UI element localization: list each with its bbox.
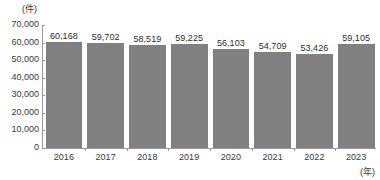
x-axis-tick-mark <box>335 148 336 151</box>
x-axis-unit-label: (年) <box>360 165 375 178</box>
x-axis-tick-mark <box>168 148 169 151</box>
x-axis-tick-mark <box>294 148 295 151</box>
bar <box>213 49 250 148</box>
bar <box>254 52 291 148</box>
bar <box>129 45 166 148</box>
x-axis-tick-mark <box>252 148 253 151</box>
bar <box>296 54 333 148</box>
bar-value-label: 59,105 <box>332 33 380 43</box>
x-axis-tick-label: 2023 <box>332 152 380 163</box>
bar <box>87 43 124 148</box>
bar-value-label: 53,426 <box>290 43 339 53</box>
bar <box>171 44 208 148</box>
bar-chart: (件) 70,00060,00050,00040,00030,00020,000… <box>0 0 380 180</box>
bar <box>338 44 375 148</box>
x-axis-tick-mark <box>210 148 211 151</box>
x-axis-tick-mark <box>127 148 128 151</box>
bar <box>46 42 83 148</box>
x-axis-tick-mark <box>85 148 86 151</box>
bars-group: 60,168201659,702201758,519201859,2252019… <box>0 0 380 180</box>
